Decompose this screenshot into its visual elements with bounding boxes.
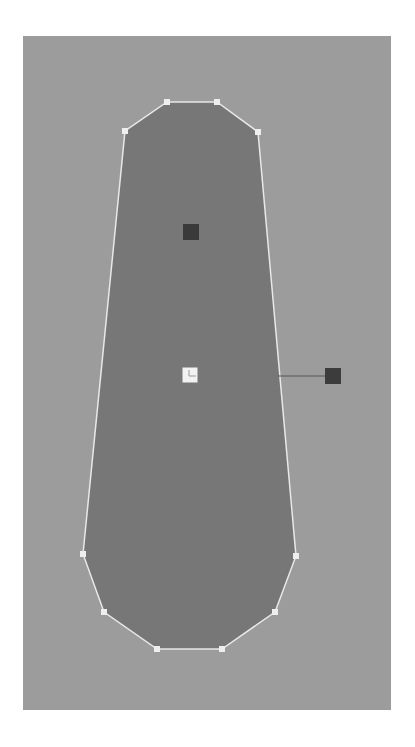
shape-editor[interactable] (0, 0, 415, 747)
vertex-handle[interactable] (122, 128, 128, 134)
rotation-handle[interactable] (325, 368, 341, 384)
center-square-icon[interactable] (183, 368, 198, 383)
center-pivot-handle[interactable] (183, 368, 198, 383)
vertex-handle[interactable] (80, 551, 86, 557)
vertex-handle[interactable] (214, 99, 220, 105)
upper-control-handle[interactable] (183, 224, 199, 240)
vertex-handle[interactable] (293, 553, 299, 559)
vertex-handle[interactable] (255, 129, 261, 135)
vertex-handle[interactable] (164, 99, 170, 105)
vertex-handle[interactable] (272, 609, 278, 615)
vertex-handle[interactable] (154, 646, 160, 652)
vertex-handle[interactable] (101, 609, 107, 615)
vertex-handle[interactable] (219, 646, 225, 652)
